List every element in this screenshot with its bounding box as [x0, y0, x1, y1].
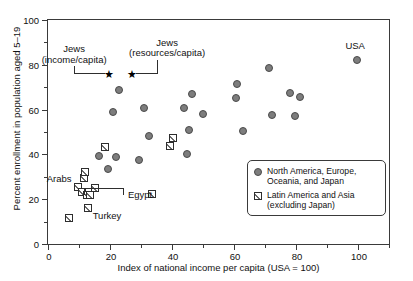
- annotation-arabs: Arabs: [47, 174, 72, 185]
- data-point-hatched-square: [101, 143, 109, 151]
- data-point-hatched-square: [84, 204, 92, 212]
- x-axis-tick-label: 60: [230, 251, 241, 262]
- data-point-circle: [268, 111, 276, 119]
- x-axis-tick-label: 20: [106, 251, 117, 262]
- data-point-circle: [296, 93, 304, 101]
- data-point-circle: [286, 89, 294, 97]
- data-point-hatched-square: [81, 168, 89, 176]
- data-point-circle: [233, 80, 241, 88]
- x-axis-title: Index of national income per capita (USA…: [47, 262, 390, 273]
- legend-line-1: North America, Europe,: [267, 166, 356, 176]
- x-axis-minor-tick: [79, 244, 80, 248]
- y-axis-minor-tick: [44, 87, 48, 88]
- hatched-square-marker-icon: [254, 192, 262, 200]
- y-axis-tick-label: 20: [28, 194, 39, 205]
- data-point-circle: [180, 104, 188, 112]
- data-point-circle: [104, 165, 112, 173]
- legend-line-1: Latin America and Asia: [267, 190, 354, 200]
- data-point-circle: [291, 112, 299, 120]
- legend-item-latin-america-asia: Latin America and Asia(excluding Japan): [254, 190, 379, 210]
- data-point-hatched-square: [169, 134, 177, 142]
- x-axis-tick: 40: [172, 244, 173, 250]
- leader-jews-resources: [136, 60, 158, 74]
- chart-legend: North America, Europe,Oceania, and Japan…: [247, 160, 386, 216]
- x-axis-minor-tick: [203, 244, 204, 248]
- legend-item-label: Latin America and Asia(excluding Japan): [267, 190, 354, 210]
- legend-line-2: Oceania, and Japan: [267, 176, 344, 186]
- y-axis-tick-label: 100: [23, 15, 39, 26]
- data-point-star: ★: [127, 69, 136, 78]
- y-axis-tick-label: 40: [28, 149, 39, 160]
- x-axis-minor-tick: [389, 244, 390, 248]
- x-axis-tick: 20: [110, 244, 111, 250]
- circle-marker-icon: [254, 168, 262, 176]
- x-axis-tick-label: 40: [168, 251, 179, 262]
- y-axis-tick: 40: [42, 154, 48, 155]
- x-axis-tick: 100: [358, 244, 359, 250]
- x-axis-tick-label: 0: [46, 251, 51, 262]
- data-point-circle: [140, 104, 148, 112]
- data-point-hatched-square: [65, 214, 73, 222]
- data-point-circle: [112, 153, 120, 161]
- data-point-circle: [95, 152, 103, 160]
- data-point-circle: [188, 90, 196, 98]
- x-axis-tick-label: 80: [292, 251, 303, 262]
- annotation-usa: USA: [345, 41, 365, 52]
- y-axis-tick-label: 80: [28, 60, 39, 71]
- y-axis-tick: 100: [42, 20, 48, 21]
- legend-item-north-america-europe-oceania-japan: North America, Europe,Oceania, and Japan: [254, 166, 379, 186]
- annotation-turkey: Turkey: [93, 211, 122, 222]
- data-point-circle: [135, 156, 143, 164]
- y-axis-minor-tick: [44, 132, 48, 133]
- leader-jews-income: [74, 66, 105, 74]
- annotation-egypt: Egypt: [128, 190, 152, 201]
- data-point-circle: [109, 108, 117, 116]
- data-point-circle: [185, 126, 193, 134]
- y-axis-tick: 60: [42, 110, 48, 111]
- y-axis-tick-label: 0: [34, 239, 39, 250]
- y-axis-tick: 20: [42, 199, 48, 200]
- x-axis-minor-tick: [265, 244, 266, 248]
- data-point-circle: [115, 86, 123, 94]
- data-point-circle: [145, 132, 153, 140]
- data-point-circle: [199, 110, 207, 118]
- leader-egypt: [84, 188, 124, 195]
- x-axis-tick: 80: [296, 244, 297, 250]
- x-axis-tick: 0: [48, 244, 49, 250]
- data-point-circle: [265, 64, 273, 72]
- data-point-hatched-square: [166, 142, 174, 150]
- legend-item-label: North America, Europe,Oceania, and Japan: [267, 166, 356, 186]
- y-axis-tick-label: 60: [28, 105, 39, 116]
- annotation-jews-resources: Jews(resources/capita): [129, 38, 205, 59]
- x-axis-tick-label: 100: [351, 251, 367, 262]
- data-point-circle: [239, 127, 247, 135]
- data-point-circle: [183, 150, 191, 158]
- scatter-chart-figure: 020406080100020406080100★★Jews(income/ca…: [0, 0, 413, 281]
- data-point-circle: [232, 94, 240, 102]
- y-axis-title: Percent enrollment in population aged 5–…: [11, 6, 22, 232]
- legend-line-2: (excluding Japan): [267, 200, 335, 210]
- x-axis-minor-tick: [327, 244, 328, 248]
- y-axis-minor-tick: [44, 222, 48, 223]
- x-axis-minor-tick: [141, 244, 142, 248]
- x-axis-tick: 60: [234, 244, 235, 250]
- data-point-circle: [353, 56, 361, 64]
- annotation-jews-income: Jews(income/capita): [42, 44, 107, 65]
